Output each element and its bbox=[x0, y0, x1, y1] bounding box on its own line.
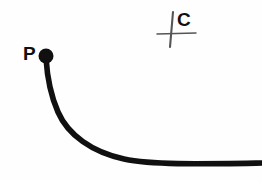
point-label-c: C bbox=[177, 10, 191, 29]
point-p-dot-icon bbox=[39, 49, 54, 64]
diagram-background bbox=[0, 0, 262, 181]
diagram-canvas bbox=[0, 0, 262, 181]
point-label-p: P bbox=[23, 44, 36, 63]
cross-marker-horizontal-line bbox=[157, 33, 196, 34]
figure-container: P C bbox=[0, 0, 262, 181]
